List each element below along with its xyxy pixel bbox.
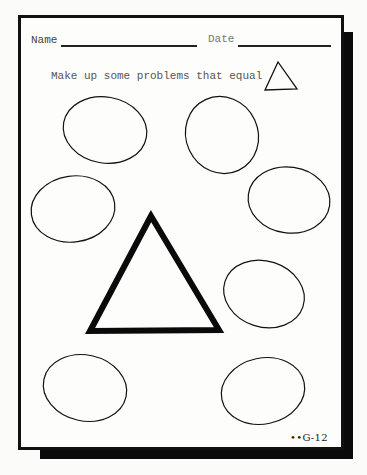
triangle-icon [265,62,297,90]
answer-oval-7[interactable] [215,350,311,432]
answer-oval-4[interactable] [244,162,334,239]
answer-oval-1[interactable] [58,90,152,170]
large-triangle-icon [90,216,219,331]
answer-oval-6[interactable] [37,347,133,429]
answer-oval-2[interactable] [173,84,271,185]
answer-oval-5[interactable] [215,250,313,338]
answer-oval-3[interactable] [27,170,119,247]
worksheet-shapes [0,0,367,475]
